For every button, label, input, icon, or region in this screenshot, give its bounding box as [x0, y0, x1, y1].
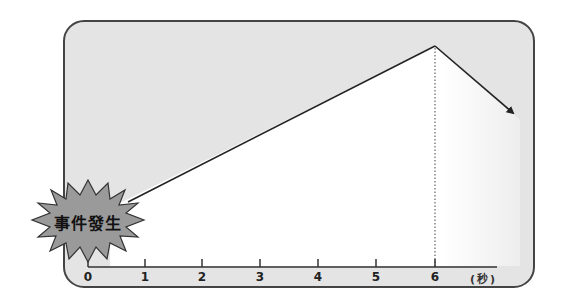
x-axis-unit-label: (秒): [470, 270, 497, 286]
tick-label-4: 4: [314, 270, 322, 284]
tick-label-3: 3: [256, 270, 264, 284]
tick-label-5: 5: [372, 270, 380, 284]
tick-label-2: 2: [198, 270, 206, 284]
tick-label-1: 1: [141, 270, 149, 284]
tick-label-0: 0: [84, 270, 92, 284]
timeline-diagram: 事件發生 0 1 2 3 4 5 6 (秒): [0, 0, 564, 305]
diagram-canvas: [0, 0, 564, 305]
event-occurred-label: 事件發生: [40, 210, 136, 234]
tick-label-6: 6: [431, 270, 439, 284]
